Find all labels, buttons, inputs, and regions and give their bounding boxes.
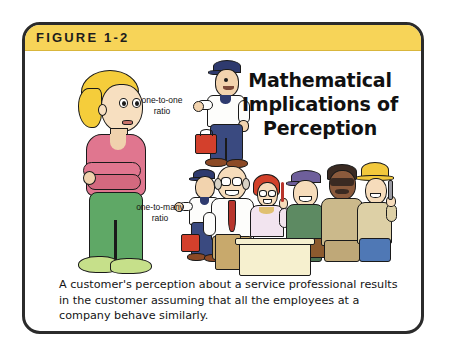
desk-front bbox=[239, 242, 311, 276]
figure-frame: FIGURE 1-2 bbox=[22, 22, 424, 334]
customer-ear bbox=[98, 104, 107, 116]
figure-label: FIGURE 1-2 bbox=[36, 30, 130, 45]
customer-mouth bbox=[122, 120, 133, 125]
wrench-icon bbox=[388, 180, 393, 200]
figure-caption: A customer's perception about a service … bbox=[25, 277, 421, 324]
employee-supervisor-mouth bbox=[299, 196, 312, 202]
customer-shoe-right bbox=[110, 258, 152, 274]
employee-manager-glasses-left bbox=[221, 177, 231, 186]
customer-collar bbox=[110, 134, 126, 150]
employee-receptionist-glasses-right bbox=[268, 190, 276, 197]
employee-receptionist-glasses-left bbox=[259, 190, 267, 197]
employee-field-agent-sunglasses bbox=[330, 178, 354, 186]
headline-line-3: Perception bbox=[225, 116, 415, 140]
employee-construction-worker-head bbox=[365, 178, 387, 204]
employee-technician-collar bbox=[200, 197, 209, 205]
professional-toolbox bbox=[195, 134, 217, 154]
employee-construction-worker-mouth bbox=[370, 193, 381, 198]
employee-manager-tie bbox=[228, 200, 236, 232]
desk-top bbox=[235, 238, 315, 245]
employee-field-agent-mustache bbox=[335, 189, 349, 194]
headline-line-2: Implications of bbox=[225, 92, 415, 116]
figure-headline: Mathematical Implications of Perception bbox=[225, 68, 415, 140]
figure-banner: FIGURE 1-2 bbox=[25, 25, 421, 51]
illustration-area: Mathematical Implications of Perception … bbox=[25, 50, 421, 285]
employee-supervisor-head bbox=[293, 180, 318, 207]
customer-hand bbox=[83, 171, 96, 185]
employee-receptionist-mouth bbox=[263, 199, 272, 204]
employee-receptionist-tool bbox=[281, 182, 284, 202]
employee-manager-arm bbox=[203, 212, 216, 236]
one-to-many-ratio-label: one-to-many ratio bbox=[119, 202, 201, 224]
one-to-one-ratio-label: one-to-one ratio bbox=[123, 95, 201, 117]
employee-group bbox=[187, 160, 421, 285]
employee-technician-head bbox=[195, 176, 215, 199]
headline-line-1: Mathematical bbox=[225, 68, 415, 92]
employee-technician-toolbox bbox=[181, 234, 200, 252]
employee-receptionist-necklace bbox=[259, 207, 274, 214]
employee-manager-hair-right bbox=[242, 178, 250, 190]
employee-manager-glasses-right bbox=[232, 177, 242, 186]
employee-construction-worker-pants bbox=[359, 238, 391, 262]
professional-toolbox-handle bbox=[200, 129, 213, 136]
employee-manager-smile bbox=[225, 190, 239, 196]
employee-field-agent-pants bbox=[324, 240, 360, 262]
